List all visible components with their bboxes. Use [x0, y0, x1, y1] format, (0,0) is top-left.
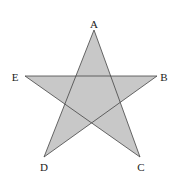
vertex-label-b: B [160, 71, 167, 83]
vertex-label-e: E [12, 71, 19, 83]
vertex-label-c: C [137, 161, 144, 173]
vertex-label-d: D [40, 161, 48, 173]
star-shape [25, 30, 157, 157]
pentagram-diagram: ABCDE [0, 0, 177, 182]
diagram-canvas: ABCDE [0, 0, 177, 182]
vertex-label-a: A [90, 18, 98, 30]
